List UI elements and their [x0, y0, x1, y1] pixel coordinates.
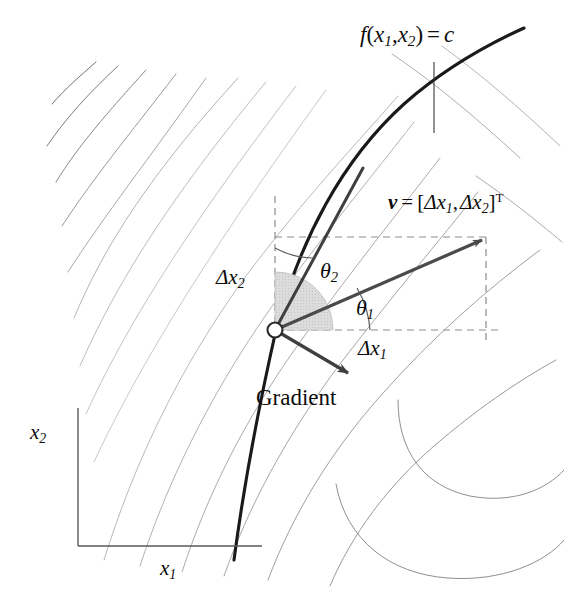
- delta-x1-sub: 1: [380, 347, 387, 362]
- theta2-symbol: θ: [320, 258, 331, 283]
- delta-x1-label: Δx1: [358, 336, 387, 363]
- vector-delta-x2: Δx: [460, 190, 482, 214]
- theta2-label: θ2: [320, 258, 338, 286]
- axis-x1-sub: 1: [169, 567, 176, 582]
- figure-canvas: f(x1,x2)=c v=[Δx1,Δx2]T θ2 θ1 Δx2 Δx1 Gr…: [0, 0, 564, 603]
- delta-x2-label: Δx2: [216, 265, 245, 292]
- origin-point-marker[interactable]: [268, 323, 283, 338]
- gradient-arrow[interactable]: [275, 330, 348, 373]
- axis-x1-symbol: x: [160, 556, 169, 580]
- theta1-symbol: θ: [356, 295, 367, 320]
- vector-v-label: v=[Δx1,Δx2]T: [388, 190, 504, 217]
- axis-x2-sub: 2: [39, 431, 46, 446]
- delta-x2-sub: 2: [238, 276, 245, 291]
- delta-x2-symbol: Δx: [216, 265, 238, 289]
- vector-bracket-close: ]: [489, 190, 496, 214]
- theta1-sub: 1: [367, 306, 374, 322]
- axes-group: [78, 408, 262, 546]
- contour-diagram-svg: [0, 0, 564, 603]
- theta1-label: θ1: [356, 295, 374, 323]
- level-set-label: f(x1,x2)=c: [360, 22, 454, 50]
- theta2-arc: [275, 248, 316, 258]
- axis-x2-symbol: x: [30, 420, 39, 444]
- level-set-arg1: x: [374, 22, 384, 47]
- level-set-constant: c: [444, 22, 454, 47]
- contour-upper-left-group: [47, 62, 206, 272]
- vector-comma: ,: [453, 190, 458, 214]
- level-set-equals: =: [427, 22, 440, 47]
- gradient-label: Gradient: [256, 385, 336, 411]
- vector-delta-x1: Δx: [424, 190, 446, 214]
- axis-x1-label: x1: [160, 556, 176, 583]
- level-set-paren-close: ): [415, 22, 423, 47]
- vector-delta-x1-sub: 1: [446, 201, 453, 216]
- vector-transpose: T: [496, 190, 504, 205]
- theta2-sub: 2: [331, 269, 338, 285]
- axis-x2-label: x2: [30, 420, 46, 447]
- vector-delta-x2-sub: 2: [482, 201, 489, 216]
- delta-x1-symbol: Δx: [358, 336, 380, 360]
- level-set-arg2: x: [398, 22, 408, 47]
- vector-v-symbol: v: [388, 190, 397, 214]
- vector-v-equals: =: [401, 190, 413, 214]
- level-set-arg1-sub: 1: [384, 32, 392, 49]
- level-set-paren-open: (: [366, 22, 374, 47]
